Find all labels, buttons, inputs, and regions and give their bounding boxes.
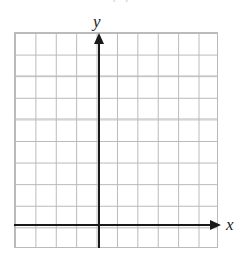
x-axis-line <box>14 224 212 226</box>
x-axis-label: x <box>226 216 234 233</box>
grid-plate <box>14 32 218 248</box>
coordinate-grid-figure: ( ) y x <box>0 0 242 255</box>
y-axis-label: y <box>93 13 101 30</box>
y-axis-line <box>98 41 100 248</box>
x-axis-arrow-icon <box>210 220 221 230</box>
top-cut-text-fragment: ( ) <box>0 0 242 2</box>
y-axis-arrow-icon <box>94 33 104 44</box>
